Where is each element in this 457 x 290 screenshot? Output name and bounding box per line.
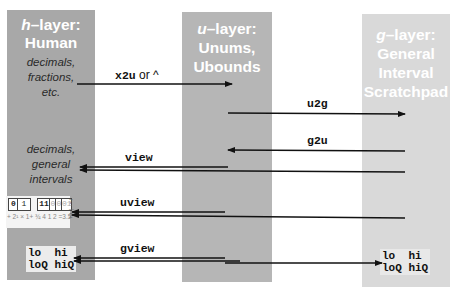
view-label: view <box>125 151 153 164</box>
u2g-arrow <box>228 113 405 114</box>
x2u-label: x2u or ^ <box>115 68 159 82</box>
arrows-layer <box>0 0 457 290</box>
uview-label: uview <box>120 196 155 209</box>
g2u-arrow <box>228 150 405 151</box>
view-arrow-from-g <box>80 170 405 172</box>
u2g-label: u2g <box>307 97 328 110</box>
gview-label: gview <box>120 242 155 255</box>
g2u-label: g2u <box>307 134 328 147</box>
uview-arrow-from-g <box>72 215 405 218</box>
